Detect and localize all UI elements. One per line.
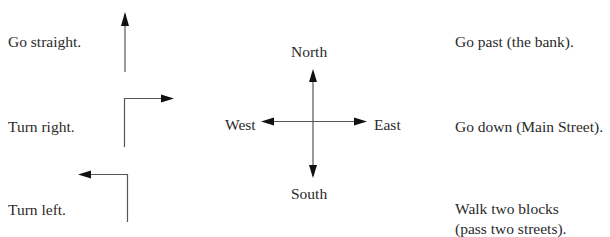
walk-two-blocks-line-2: (pass two streets). bbox=[455, 219, 567, 237]
go-straight-label: Go straight. bbox=[8, 32, 81, 52]
go-past-label: Go past (the bank). bbox=[455, 32, 574, 52]
west-arrowhead-icon bbox=[261, 118, 274, 126]
compass-north-label: North bbox=[291, 42, 327, 62]
turn-left-label: Turn left. bbox=[8, 200, 66, 220]
turn-right-arrow-icon bbox=[125, 95, 175, 148]
east-arrowhead-icon bbox=[354, 118, 367, 126]
compass-east-label: East bbox=[374, 115, 401, 135]
compass-cross-arrows-icon bbox=[261, 69, 367, 178]
south-arrowhead-icon bbox=[309, 165, 317, 178]
walk-two-blocks-line-1: Walk two blocks bbox=[455, 199, 567, 219]
turn-right-label: Turn right. bbox=[8, 117, 75, 137]
go-down-label: Go down (Main Street). bbox=[455, 117, 603, 137]
compass-south-label: South bbox=[291, 184, 327, 204]
north-arrowhead-icon bbox=[309, 69, 317, 82]
walk-two-blocks-label: Walk two blocks (pass two streets). bbox=[455, 199, 567, 237]
straight-arrow-icon bbox=[121, 12, 129, 72]
compass-west-label: West bbox=[225, 115, 256, 135]
turn-left-arrow-icon bbox=[78, 171, 128, 223]
